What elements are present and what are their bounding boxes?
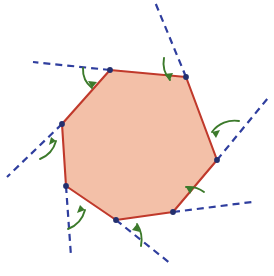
diagram-canvas [0, 0, 274, 276]
exterior-angle-F [68, 205, 85, 229]
vertex-dot-B [183, 74, 189, 80]
exterior-angle-E [132, 224, 142, 246]
geometry-diagram [0, 0, 274, 276]
ray-at-F [66, 186, 71, 256]
ray-at-D [173, 202, 252, 212]
heptagon-shape [62, 70, 217, 220]
exterior-angle-C [212, 121, 239, 138]
vertex-dot-G [59, 121, 65, 127]
ray-at-A [33, 62, 110, 70]
vertex-dot-C [214, 157, 220, 163]
vertex-dot-E [113, 217, 119, 223]
exterior-angle-A [83, 68, 97, 88]
exterior-angle-C-arc [212, 121, 239, 132]
ray-at-B [155, 2, 186, 77]
exterior-angle-F-arc [68, 210, 85, 229]
ray-at-G [7, 124, 62, 177]
vertex-dot-D [170, 209, 176, 215]
vertex-dot-A [107, 67, 113, 73]
vertex-dot-F [63, 183, 69, 189]
ray-at-C [217, 98, 268, 160]
ray-at-E [116, 220, 171, 264]
exterior-angle-G [40, 137, 56, 159]
